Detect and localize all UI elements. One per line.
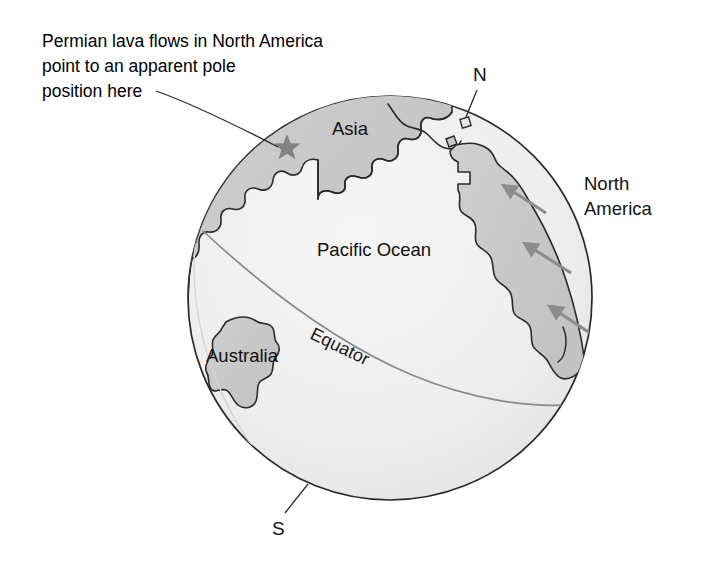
south-pole-annotation: S	[272, 484, 308, 539]
south-pole-leader-line	[285, 484, 308, 513]
caption-line-3: position here	[42, 81, 142, 101]
globe	[188, 92, 596, 500]
label-asia: Asia	[332, 118, 369, 139]
caption-line-1: Permian lava flows in North America	[42, 31, 323, 51]
north-pole-annotation: N	[466, 64, 487, 117]
caption-line-2: point to an apparent pole	[42, 56, 236, 76]
label-australia: Australia	[206, 345, 279, 366]
label-north-america-line-1: North	[584, 173, 629, 194]
north-pole-label: N	[473, 64, 487, 85]
caption-block: Permian lava flows in North America poin…	[42, 31, 323, 101]
figure-canvas: Permian lava flows in North America poin…	[0, 0, 705, 566]
caption-leader-line	[156, 91, 278, 147]
label-pacific-ocean: Pacific Ocean	[317, 239, 431, 260]
south-pole-label: S	[272, 518, 285, 539]
label-north-america-line-2: America	[584, 198, 653, 219]
north-pole-square-marker	[460, 117, 471, 128]
globe-diagram: Permian lava flows in North America poin…	[0, 0, 705, 566]
